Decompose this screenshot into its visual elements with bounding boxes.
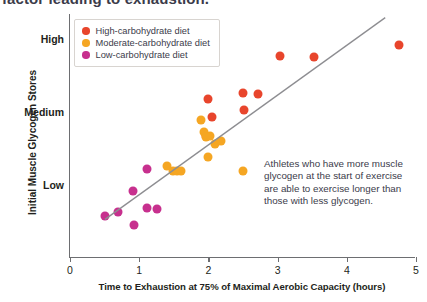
data-point bbox=[203, 95, 212, 104]
data-point bbox=[100, 211, 109, 220]
legend-label: Low-carbohydrate diet bbox=[96, 50, 188, 60]
legend-swatch-icon bbox=[82, 39, 90, 47]
legend-item: High-carbohydrate diet bbox=[82, 25, 210, 37]
legend-item: Moderate-carbohydrate diet bbox=[82, 37, 210, 49]
legend-swatch-icon bbox=[82, 51, 90, 59]
data-point bbox=[197, 116, 206, 125]
data-point bbox=[207, 113, 216, 122]
x-tick-mark bbox=[208, 257, 209, 262]
data-point bbox=[239, 167, 248, 176]
chart-annotation: Athletes who have more muscle glycogen a… bbox=[264, 158, 416, 208]
data-point bbox=[240, 106, 249, 115]
data-point bbox=[203, 153, 212, 162]
data-point bbox=[253, 90, 262, 99]
data-point bbox=[176, 167, 185, 176]
x-axis-title: Time to Exhaustion at 75% of Maximal Aer… bbox=[69, 281, 415, 292]
legend-swatch-icon bbox=[82, 27, 90, 35]
y-tick-label: Low bbox=[43, 179, 64, 191]
data-point bbox=[216, 137, 225, 146]
data-point bbox=[129, 221, 138, 230]
x-tick-mark bbox=[347, 257, 348, 262]
data-point bbox=[309, 52, 318, 61]
page-title-text: factor leading to exhaustion. bbox=[2, 0, 209, 7]
x-tick-mark bbox=[70, 257, 71, 262]
y-tick-label: Medium bbox=[24, 106, 64, 118]
y-axis-title: Initial Muscle Glycogen Stores bbox=[27, 53, 38, 233]
x-tick-mark bbox=[278, 257, 279, 262]
data-point bbox=[142, 165, 151, 174]
x-tick-label: 0 bbox=[67, 264, 73, 276]
page-title-sliver: factor leading to exhaustion. bbox=[0, 0, 427, 9]
data-point bbox=[142, 204, 151, 213]
x-tick-label: 2 bbox=[205, 264, 211, 276]
legend-item: Low-carbohydrate diet bbox=[82, 49, 210, 61]
data-point bbox=[395, 40, 404, 49]
data-point bbox=[113, 208, 122, 217]
data-point bbox=[128, 186, 137, 195]
legend-label: High-carbohydrate diet bbox=[96, 26, 190, 36]
x-tick-mark bbox=[139, 257, 140, 262]
y-tick-label: High bbox=[41, 33, 64, 45]
data-point bbox=[275, 51, 284, 60]
x-tick-label: 1 bbox=[136, 264, 142, 276]
x-tick-mark bbox=[416, 257, 417, 262]
legend: High-carbohydrate dietModerate-carbohydr… bbox=[74, 19, 220, 67]
x-tick-label: 5 bbox=[413, 264, 419, 276]
x-tick-label: 4 bbox=[344, 264, 350, 276]
legend-label: Moderate-carbohydrate diet bbox=[96, 38, 210, 48]
data-point bbox=[153, 205, 162, 214]
data-point bbox=[239, 89, 248, 98]
x-tick-label: 3 bbox=[275, 264, 281, 276]
